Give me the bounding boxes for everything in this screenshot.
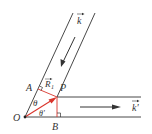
svg-text:R: R (44, 79, 51, 89)
label-B: B (52, 121, 58, 132)
label-O: O (13, 112, 20, 123)
origin-point (24, 116, 27, 119)
svg-text:k': k' (132, 102, 139, 113)
svg-text:1: 1 (51, 84, 54, 90)
right-angle-mark-B (57, 113, 61, 117)
label-theta: θ (33, 98, 38, 108)
svg-text:k: k (77, 15, 82, 26)
label-A: A (25, 82, 33, 93)
label-R1: R 1 (44, 78, 54, 90)
label-k-prime: k' (132, 100, 140, 113)
outgoing-arrow-icon (80, 105, 121, 110)
label-P: P (59, 82, 66, 93)
label-k: k (77, 13, 85, 26)
label-theta-prime: θ' (39, 109, 45, 118)
reflection-diagram: k k' A P O B R 1 θ θ' (0, 0, 152, 134)
